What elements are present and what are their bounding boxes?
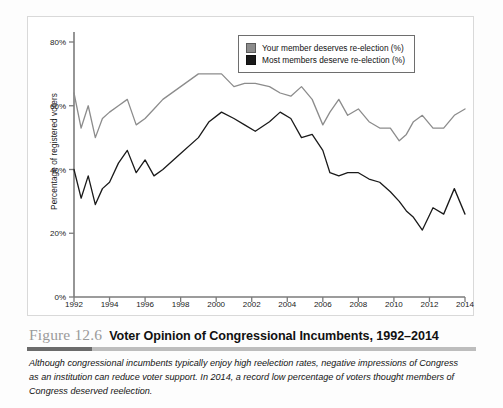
figure-headline: Figure 12.6 Voter Opinion of Congression… xyxy=(27,326,476,344)
x-tick-label: 1992 xyxy=(54,300,94,309)
legend-swatch-gray-icon xyxy=(246,43,256,53)
legend-label-your-member: Your member deserves re-election (%) xyxy=(262,43,404,53)
y-tick-label: 60% xyxy=(36,101,66,110)
legend-item-most-members: Most members deserve re-election (%) xyxy=(246,55,405,65)
legend-item-your-member: Your member deserves re-election (%) xyxy=(246,43,405,53)
x-tick-label: 2014 xyxy=(445,300,485,309)
x-axis-tick-labels: 1992199419961998200020022004200620082010… xyxy=(28,300,475,320)
x-tick-label: 2006 xyxy=(303,300,343,309)
x-tick-label: 1994 xyxy=(90,300,130,309)
x-tick-label: 1998 xyxy=(161,300,201,309)
figure-caption-block: Figure 12.6 Voter Opinion of Congression… xyxy=(27,326,476,398)
x-tick-label: 2012 xyxy=(409,300,449,309)
legend-swatch-black-icon xyxy=(246,55,256,65)
data-series-line-most-members xyxy=(74,112,465,230)
x-tick-label: 2002 xyxy=(232,300,272,309)
y-tick-label: 40% xyxy=(36,165,66,174)
figure-rule-divider xyxy=(27,347,476,351)
y-tick-label: 80% xyxy=(36,38,66,47)
x-tick-label: 2010 xyxy=(374,300,414,309)
legend-label-most-members: Most members deserve re-election (%) xyxy=(262,55,405,65)
figure-title: Voter Opinion of Congressional Incumbent… xyxy=(109,329,439,343)
x-tick-label: 2008 xyxy=(338,300,378,309)
x-tick-label: 2000 xyxy=(196,300,236,309)
y-axis-tick-labels: 0%20%40%60%80% xyxy=(32,17,66,317)
data-series-line-your-member xyxy=(74,74,465,141)
y-tick-label: 20% xyxy=(36,229,66,238)
figure-caption-text: Although congressional incumbents typica… xyxy=(27,357,459,398)
figure-number: Figure 12.6 xyxy=(29,326,102,344)
chart-legend: Your member deserves re-election (%) Mos… xyxy=(238,35,415,73)
figure-container: Percentage of registered voters 0%20%40%… xyxy=(0,0,503,408)
x-tick-label: 2004 xyxy=(267,300,307,309)
x-tick-label: 1996 xyxy=(125,300,165,309)
chart-frame: Percentage of registered voters 0%20%40%… xyxy=(27,16,474,316)
